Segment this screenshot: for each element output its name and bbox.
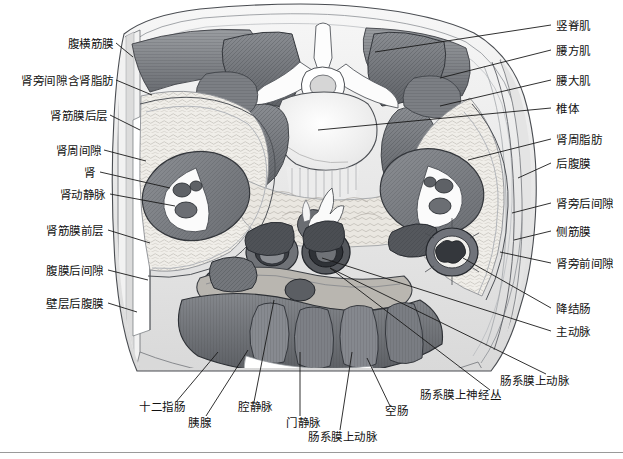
label-jejunum: 空肠 [385,406,408,418]
jejunum-mass [178,293,442,392]
label-anterior-pararenal-space: 肾旁前间隙 [556,259,614,271]
label-text: 胰腺 [188,416,211,430]
label-text: 肾动静脉 [60,188,106,202]
footer-divider [0,452,623,453]
label-text: 壁层后腹膜 [46,297,104,311]
label-duodenum: 十二指肠 [139,402,185,414]
label-posterior-pararenal-space: 肾旁后间隙 [556,199,614,211]
label-pararenal-space-fat: 肾旁间隙含肾脂肪 [6,76,114,88]
label-text: 侧筋膜 [556,225,591,239]
label-superior-mesenteric-artery-bottom: 肠系膜上动脉 [308,432,378,444]
label-erector-spinae: 竖脊肌 [556,21,591,33]
label-text: 腹横筋膜 [68,37,114,51]
label-anterior-renal-fascia: 肾筋膜前层 [8,226,104,238]
label-psoas-major: 腰大肌 [556,76,591,88]
label-text: 腹膜后间隙 [46,264,104,278]
label-lateroconal-fascia: 侧筋膜 [556,227,591,239]
label-descending-colon: 降结肠 [556,304,591,316]
label-portal-vein: 门静脉 [286,418,321,430]
figure-canvas: 腹横筋膜 肾旁间隙含肾脂肪 肾筋膜后层 肾周间隙 肾 肾动静脉 肾筋膜前层 腹膜… [0,0,623,459]
label-text: 空肠 [385,404,408,418]
label-text: 主动脉 [556,325,591,339]
label-quadratus-lumborum: 腰方肌 [556,46,591,58]
label-transversalis-fascia: 腹横筋膜 [14,39,114,51]
label-text: 肾旁后间隙 [556,197,614,211]
label-text: 十二指肠 [139,400,185,414]
label-perirenal-space: 肾周间隙 [8,146,102,158]
label-retroperitoneal-space: 腹膜后间隙 [8,266,104,278]
label-posterior-renal-fascia: 肾筋膜后层 [8,111,108,123]
label-superior-mesenteric-artery-right: 肠系膜上动脉 [500,376,570,388]
label-text: 肾旁前间隙 [556,257,614,271]
label-text: 腔静脉 [238,400,273,414]
label-text: 肠系膜上神经丛 [420,388,501,402]
label-text: 肾筋膜后层 [50,109,108,123]
label-text: 肾旁间隙含肾脂肪 [21,74,114,88]
label-aorta: 主动脉 [556,327,591,339]
label-text: 门静脉 [286,416,321,430]
label-text: 肾筋膜前层 [46,224,104,238]
label-vertebral-body: 椎体 [556,104,579,116]
label-inferior-vena-cava: 腔静脉 [238,402,273,414]
label-text: 降结肠 [556,302,591,316]
label-text: 椎体 [556,102,579,116]
label-text: 竖脊肌 [556,19,591,33]
label-text: 肠系膜上动脉 [500,374,570,388]
label-retroperitoneum: 后腹膜 [556,159,591,171]
label-kidney: 肾 [8,168,96,180]
label-parietal-retroperitoneum: 壁层后腹膜 [8,299,104,311]
label-superior-mesenteric-plexus: 肠系膜上神经丛 [420,390,501,402]
label-text: 肾 [84,166,96,180]
label-text: 肠系膜上动脉 [308,430,378,444]
label-renal-artery-vein: 肾动静脉 [8,190,106,202]
label-text: 后腹膜 [556,157,591,171]
label-text: 腰方肌 [556,44,591,58]
label-text: 肾周间隙 [56,144,102,158]
label-text: 腰大肌 [556,74,591,88]
label-text: 肾周脂肪 [556,133,602,147]
label-perirenal-fat: 肾周脂肪 [556,135,602,147]
label-pancreas: 胰腺 [188,418,211,430]
